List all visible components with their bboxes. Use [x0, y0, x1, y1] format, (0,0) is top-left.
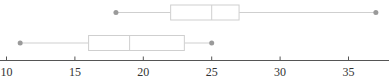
iqr-box [89, 36, 185, 51]
min-point [113, 10, 118, 15]
max-point [373, 10, 378, 15]
x-tick-label: 15 [69, 65, 81, 79]
x-tick-label: 35 [343, 65, 355, 79]
box-plot-chart: 101520253035 [0, 0, 389, 84]
x-tick-label: 25 [206, 65, 218, 79]
boxes-layer [18, 5, 379, 51]
min-point [18, 41, 23, 46]
boxplot-upper [113, 5, 378, 20]
x-tick-label: 30 [274, 65, 286, 79]
boxplot-lower [18, 36, 215, 51]
x-tick-label: 10 [1, 65, 13, 79]
max-point [209, 41, 214, 46]
iqr-box [171, 5, 239, 20]
x-tick-label: 20 [137, 65, 149, 79]
x-axis: 101520253035 [0, 57, 389, 80]
